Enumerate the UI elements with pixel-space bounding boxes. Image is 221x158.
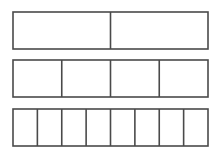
fraction-bar-eighths — [13, 109, 208, 146]
fraction-bar-fourths — [13, 60, 208, 97]
fraction-bar-halves — [13, 12, 208, 49]
fraction-bars-diagram — [0, 0, 221, 158]
